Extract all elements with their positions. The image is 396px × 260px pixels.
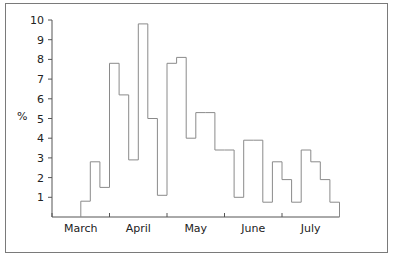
- histogram-outline: [81, 24, 340, 217]
- y-tick-label: 4: [37, 132, 44, 145]
- y-tick-label: 10: [30, 14, 44, 27]
- y-axis-label: %: [17, 110, 27, 123]
- y-tick-label: 2: [37, 172, 44, 185]
- x-tick-label-april: April: [126, 222, 151, 235]
- y-tick-label: 3: [37, 152, 44, 165]
- y-tick-label: 7: [37, 73, 44, 86]
- y-tick-label: 1: [37, 191, 44, 204]
- y-tick-label: 5: [37, 113, 44, 126]
- histogram-chart: 12345678910 MarchAprilMayJuneJuly %: [0, 0, 396, 260]
- x-tick-label-may: May: [184, 222, 207, 235]
- x-tick-label-july: July: [300, 222, 321, 235]
- x-tick-label-march: March: [64, 222, 98, 235]
- histogram-steps: [81, 24, 340, 217]
- y-tick-label: 9: [37, 34, 44, 47]
- x-tick-label-june: June: [240, 222, 265, 235]
- y-tick-label: 6: [37, 93, 44, 106]
- y-axis: 12345678910: [30, 14, 52, 217]
- y-tick-label: 8: [37, 53, 44, 66]
